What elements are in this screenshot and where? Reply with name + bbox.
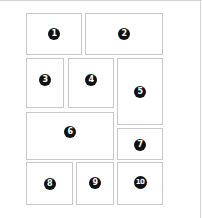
number-badge: 1 <box>48 28 60 40</box>
panel-5: 5 <box>117 58 163 125</box>
panel-3: 3 <box>26 58 64 108</box>
number-badge: 2 <box>118 28 130 40</box>
number-badge: 5 <box>134 86 146 98</box>
panel-1: 1 <box>26 13 82 55</box>
number-badge: 6 <box>64 126 76 138</box>
number-badge: 4 <box>85 74 97 86</box>
frame-right-border <box>200 0 201 218</box>
number-badge: 9 <box>89 177 101 189</box>
panel-2: 2 <box>85 13 163 55</box>
panel-8: 8 <box>26 162 73 205</box>
number-badge: 3 <box>39 74 51 86</box>
number-badge: 7 <box>134 139 146 151</box>
panel-4: 4 <box>68 58 114 108</box>
frame-top-border <box>0 0 202 1</box>
panel-9: 9 <box>76 162 114 205</box>
panel-10: 10 <box>117 162 163 205</box>
number-badge: 10 <box>134 176 147 189</box>
number-badge: 8 <box>44 178 56 190</box>
panel-6: 6 <box>26 112 114 160</box>
panel-7: 7 <box>117 128 163 160</box>
